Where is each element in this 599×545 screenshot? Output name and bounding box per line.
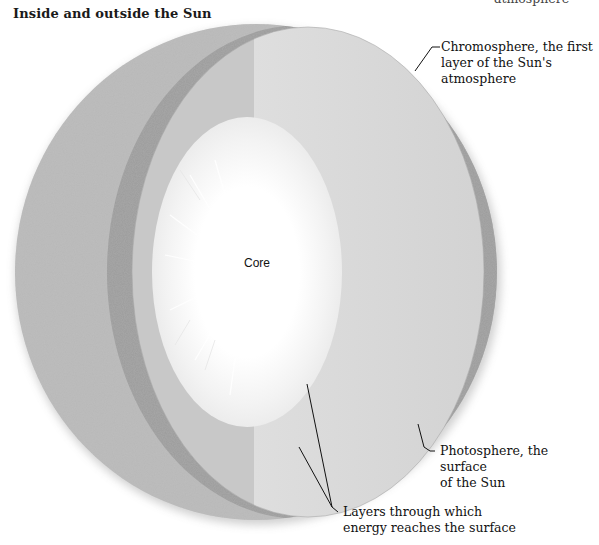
photosphere-label-line: Photosphere, the surface: [440, 443, 599, 475]
chromosphere-label-line: layer of the Sun's: [441, 55, 593, 71]
chromosphere-leader-line: [415, 47, 440, 71]
layers-label-line: Layers through which: [343, 504, 516, 520]
layers-label-line: energy reaches the surface: [343, 520, 516, 536]
core-label: Core: [244, 256, 270, 270]
photosphere-label-line: of the Sun: [440, 475, 599, 491]
chromosphere-label: Chromosphere, the first layer of the Sun…: [441, 39, 593, 87]
chromosphere-label-line: Chromosphere, the first: [441, 39, 593, 55]
layers-label: Layers through which energy reaches the …: [343, 504, 516, 536]
chromosphere-label-line: atmosphere: [441, 71, 593, 87]
photosphere-label: Photosphere, the surface of the Sun: [440, 443, 599, 491]
